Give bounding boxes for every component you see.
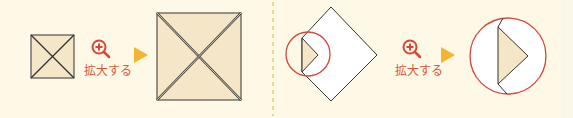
folded-diamond-diagram bbox=[286, 7, 377, 101]
small-square-diagram bbox=[31, 35, 74, 78]
zoom-in-icon bbox=[93, 41, 110, 58]
zoom-label-left: 拡大する bbox=[84, 61, 132, 78]
zoom-label-right: 拡大する bbox=[395, 61, 443, 78]
play-arrow-icon bbox=[441, 47, 455, 63]
large-square-diagram bbox=[157, 13, 241, 100]
zoom-in-icon bbox=[404, 41, 421, 58]
diagram-canvas bbox=[0, 0, 573, 118]
play-arrow-icon bbox=[134, 47, 148, 63]
enlarged-circle-diagram bbox=[470, 18, 546, 94]
